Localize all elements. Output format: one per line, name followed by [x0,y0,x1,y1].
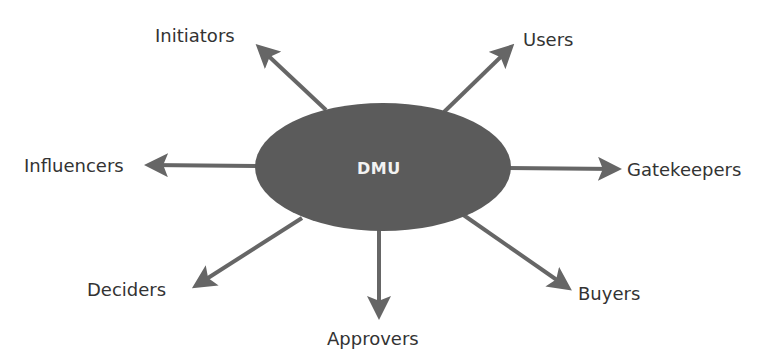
arrow-influencers [150,165,258,166]
arrow-gatekeepers [508,168,616,169]
role-label-influencers: Influencers [24,157,124,175]
role-label-initiators: Initiators [155,27,235,45]
role-label-approvers: Approvers [327,330,419,348]
arrow-buyers [462,214,567,287]
role-label-users: Users [523,31,573,49]
role-label-deciders: Deciders [87,281,166,299]
arrow-deciders [197,218,302,285]
role-label-buyers: Buyers [578,285,640,303]
arrow-initiators [260,48,326,110]
arrow-users [444,48,510,112]
dmu-label: DMU [357,159,401,178]
dmu-diagram [0,0,782,364]
role-label-gatekeepers: Gatekeepers [627,161,741,179]
